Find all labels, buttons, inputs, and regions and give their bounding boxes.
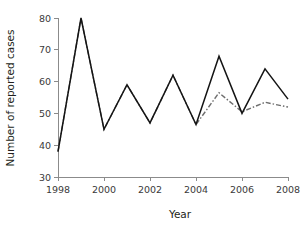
y-tick-label: 80 bbox=[39, 13, 51, 24]
y-tick-label: 70 bbox=[39, 44, 51, 55]
x-tick-label: 1998 bbox=[46, 184, 70, 195]
y-tick-label: 60 bbox=[39, 76, 51, 87]
series-line-fitted bbox=[58, 18, 288, 152]
x-axis-title: Year bbox=[168, 208, 192, 220]
line-chart: 304050607080 199820002002200420062008 Ye… bbox=[0, 0, 308, 226]
x-tick-label: 2006 bbox=[230, 184, 254, 195]
series-line-observed bbox=[58, 18, 288, 152]
x-tick-label: 2008 bbox=[276, 184, 300, 195]
y-tick-label: 50 bbox=[39, 108, 51, 119]
x-tick-label: 2004 bbox=[184, 184, 208, 195]
y-tick-label: 30 bbox=[39, 172, 51, 183]
chart-figure: 304050607080 199820002002200420062008 Ye… bbox=[0, 0, 308, 226]
y-axis-title: Number of reported cases bbox=[4, 29, 16, 166]
y-tick-label: 40 bbox=[39, 140, 51, 151]
x-tick-label: 2000 bbox=[92, 184, 116, 195]
y-axis-ticks: 304050607080 bbox=[39, 13, 58, 183]
x-axis-ticks: 199820002002200420062008 bbox=[46, 177, 300, 195]
x-tick-label: 2002 bbox=[138, 184, 162, 195]
